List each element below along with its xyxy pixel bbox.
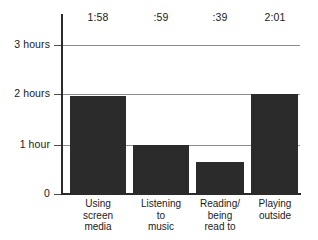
value-label-using-screen-media: 1:58 (70, 11, 126, 23)
category-line: Listening (129, 198, 193, 210)
category-line: Using (68, 198, 128, 210)
category-line: read to (188, 221, 252, 233)
value-label-reading-being-read-to: :39 (192, 11, 248, 23)
y-axis-line (61, 14, 63, 195)
ytick-label-zero: 0 (44, 188, 50, 199)
bar-using-screen-media (70, 96, 126, 194)
value-label-listening-to-music: :59 (133, 11, 189, 23)
bar-listening-to-music (133, 145, 189, 194)
gridline-3-hours (62, 45, 300, 46)
ytick-label-3-hours: 3 hours (14, 39, 50, 50)
category-line: media (68, 221, 128, 233)
category-label-playing-outside: Playing outside (246, 198, 304, 221)
category-label-reading-being-read-to: Reading/ being read to (188, 198, 252, 233)
category-line: music (129, 221, 193, 233)
ytick-label-1-hour: 1 hour (20, 139, 50, 150)
category-label-listening-to-music: Listening to music (129, 198, 193, 233)
ytick-label-2-hours: 2 hours (14, 88, 50, 99)
category-line: to (129, 210, 193, 222)
category-line: Playing (246, 198, 304, 210)
category-line: being (188, 210, 252, 222)
bar-playing-outside (251, 94, 298, 194)
bar-chart: 3 hours 2 hours 1 hour 0 1:58 :59 :39 2:… (0, 0, 318, 240)
category-line: screen (68, 210, 128, 222)
category-line: Reading/ (188, 198, 252, 210)
value-label-playing-outside: 2:01 (247, 11, 303, 23)
category-label-using-screen-media: Using screen media (68, 198, 128, 233)
category-line: outside (246, 210, 304, 222)
bar-reading-being-read-to (196, 162, 244, 194)
